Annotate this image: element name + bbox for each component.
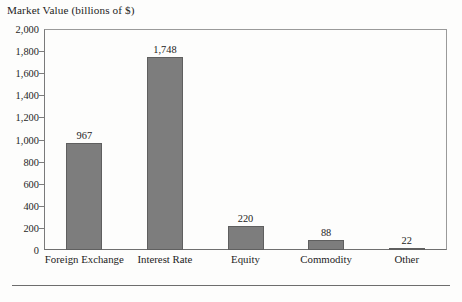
bar-group: 1,748 — [147, 29, 183, 250]
bar-group: 22 — [389, 29, 425, 250]
bar — [66, 143, 102, 250]
y-axis-tick-label: 1,200 — [0, 112, 39, 123]
x-axis: Foreign ExchangeInterest RateEquityCommo… — [44, 253, 447, 271]
y-axis-tick-label: 1,400 — [0, 90, 39, 101]
bar — [147, 57, 183, 250]
bar-value-label: 967 — [77, 130, 93, 141]
bottom-divider-rule — [12, 285, 450, 286]
chart-title: Market Value (billions of $) — [7, 4, 135, 16]
bar — [308, 240, 344, 250]
bar — [389, 248, 425, 250]
x-axis-category-label: Other — [394, 253, 419, 265]
bar-chart-figure: Market Value (billions of $) 02004006008… — [0, 0, 462, 302]
bar-value-label: 220 — [238, 213, 254, 224]
y-axis-tick-label: 800 — [0, 156, 39, 167]
x-axis-category-label: Foreign Exchange — [45, 253, 124, 265]
y-axis-tick-label: 2,000 — [0, 24, 39, 35]
bar — [228, 226, 264, 250]
bar-group: 967 — [66, 29, 102, 250]
bar-value-label: 1,748 — [153, 44, 176, 55]
y-axis-tick-label: 0 — [0, 245, 39, 256]
bar-group: 88 — [308, 29, 344, 250]
y-axis-tick-label: 200 — [0, 222, 39, 233]
y-axis-tick-label: 1,000 — [0, 134, 39, 145]
bar-value-label: 88 — [321, 227, 331, 238]
y-axis-tick-label: 600 — [0, 178, 39, 189]
bar-group: 220 — [228, 29, 264, 250]
x-axis-category-label: Interest Rate — [137, 253, 192, 265]
y-axis-tick-label: 400 — [0, 200, 39, 211]
bars-layer: 9671,7482208822 — [44, 29, 447, 250]
y-axis-tick-label: 1,800 — [0, 46, 39, 57]
x-axis-category-label: Equity — [231, 253, 260, 265]
bar-value-label: 22 — [401, 235, 411, 246]
x-axis-category-label: Commodity — [300, 253, 352, 265]
y-axis-tick-label: 1,600 — [0, 68, 39, 79]
